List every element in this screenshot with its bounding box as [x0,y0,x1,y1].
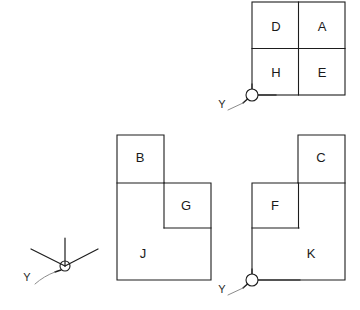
datum-leader-line-bottom [228,288,243,295]
triad-leader-line [35,272,55,284]
datum-symbol-top-right: Y [218,84,276,110]
face-label-b: B [136,150,145,165]
datum-label-y-top: Y [218,98,226,110]
datum-leader-arrow-bottom [243,284,248,288]
triad-label-y: Y [23,271,31,283]
face-label-k: K [307,246,316,261]
engineering-drawing: D A H E Y B G J [0,0,360,310]
triad-ray-left [31,249,65,266]
triad-leader-arrow [55,270,61,272]
axis-triad-symbol: Y [23,238,98,284]
datum-leader-arrow-top [243,99,248,103]
datum-label-y-bottom: Y [218,283,226,295]
face-label-h: H [271,65,280,80]
view-left-l-shape: B G J [117,135,211,280]
face-label-f: F [271,198,279,213]
face-label-e: E [318,65,327,80]
triad-ray-right [65,249,98,266]
diagram-canvas: D A H E Y B G J [0,0,360,310]
face-label-a: A [318,19,327,34]
datum-leader-line-top [228,103,243,110]
view-four-quadrant-square: D A H E [252,2,345,95]
face-label-c: C [316,150,325,165]
datum-symbol-bottom-right: Y [218,269,300,295]
face-label-j: J [140,246,147,261]
face-label-g: G [181,198,191,213]
view-right-mirrored-l-shape: C F K [252,135,345,280]
face-label-d: D [271,19,280,34]
